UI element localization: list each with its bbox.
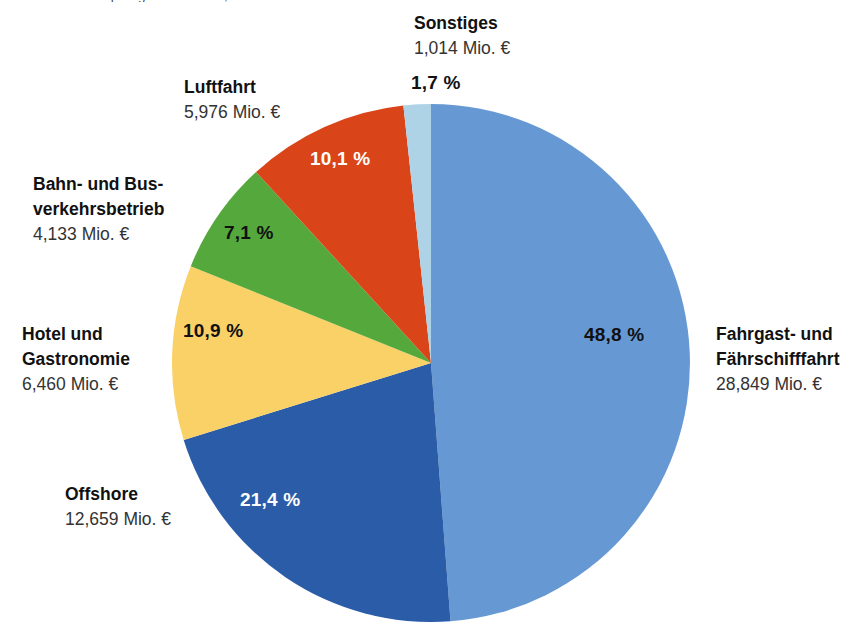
label-fahrgast-und-faehrschifffahrt: Fahrgast- und Fährschifffahrt 28,849 Mio… [716,322,839,397]
label-sonstiges-value: 1,014 Mio. € [414,36,510,61]
slice-percent-bahn: 7,1 % [224,222,274,244]
label-fahrgast-value: 28,849 Mio. € [716,372,839,397]
label-offshore-name: Offshore [65,482,171,507]
label-bahn-und-busverkehrsbetrieb: Bahn- und Bus- verkehrsbetrieb 4,133 Mio… [33,172,164,247]
slice-percent-luftfahrt: 10,1 % [310,148,370,170]
label-hotel-value: 6,460 Mio. € [22,372,130,397]
label-bahn-name-line1: Bahn- und Bus- [33,172,164,197]
label-luftfahrt-value: 5,976 Mio. € [184,100,280,125]
label-luftfahrt: Luftfahrt 5,976 Mio. € [184,75,280,125]
cropped-top-caption: Bruttowertschöpfung in Mio. Euro, 2016 [18,0,538,2]
label-bahn-value: 4,133 Mio. € [33,222,164,247]
slice-percent-fahrgast: 48,8 % [584,324,644,346]
pie-chart-figure: Bruttowertschöpfung in Mio. Euro, 2016 4… [0,0,866,634]
label-bahn-name-line2: verkehrsbetrieb [33,197,164,222]
pie-graphic [172,104,690,622]
pie-slice-fahrgast [431,104,690,621]
label-hotel-name-line2: Gastronomie [22,347,130,372]
label-offshore-value: 12,659 Mio. € [65,507,171,532]
slice-percent-offshore: 21,4 % [240,489,300,511]
label-sonstiges-name: Sonstiges [414,11,510,36]
label-luftfahrt-name: Luftfahrt [184,75,280,100]
label-offshore: Offshore 12,659 Mio. € [65,482,171,532]
label-hotel-name-line1: Hotel und [22,322,130,347]
slice-percent-hotel: 10,9 % [183,320,243,342]
pie-svg [172,104,690,622]
label-fahrgast-name-line2: Fährschifffahrt [716,347,839,372]
label-sonstiges: Sonstiges 1,014 Mio. € [414,11,510,61]
label-hotel-und-gastronomie: Hotel und Gastronomie 6,460 Mio. € [22,322,130,397]
label-fahrgast-name-line1: Fahrgast- und [716,322,839,347]
slice-percent-sonstiges: 1,7 % [411,72,461,94]
